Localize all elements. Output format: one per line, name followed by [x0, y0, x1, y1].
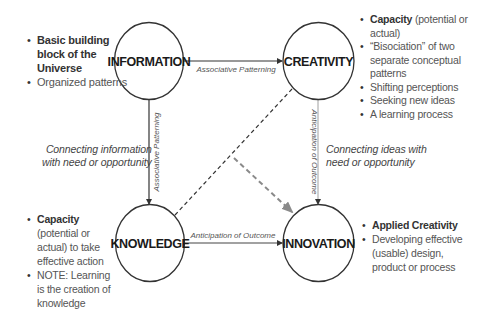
node-knowledge-label: KNOWLEDGE [110, 237, 189, 251]
information-bullets: Basic building block of the Universe Org… [27, 33, 119, 89]
information-bullet-bold: Basic building block of the Universe [37, 34, 109, 74]
creativity-bullet: “Bisociation” of two separate conceptual… [360, 40, 470, 81]
node-information-label: INFORMATION [108, 55, 191, 69]
creativity-bullet-text: Seeking new ideas [370, 94, 455, 106]
creativity-bullet: A learning process [360, 108, 470, 122]
connect-note-left-line2: with need or opportunity [42, 156, 152, 169]
node-creativity: CREATIVITY [283, 23, 354, 100]
creativity-bullet: Capacity (potential or actual) [360, 13, 470, 40]
information-bullet: Organized patterns [27, 75, 119, 89]
creativity-bullet: Seeking new ideas [360, 94, 470, 108]
knowledge-bullets: Capacity (potential or actual) to take e… [27, 212, 119, 310]
connect-note-right-line2: need or opportunity [326, 156, 427, 169]
edge-label-info-knowledge: Associative Patterning [152, 112, 161, 193]
innovation-bullets: Applied Creativity Developing effective … [362, 218, 472, 274]
innovation-bullet-text: Developing effective (usable) design, pr… [372, 233, 462, 273]
knowledge-bullet: NOTE: Learning is the creation of knowle… [27, 268, 119, 310]
creativity-bullet-text: A learning process [370, 108, 453, 120]
innovation-bullet: Developing effective (usable) design, pr… [362, 232, 472, 274]
information-bullet-text: Organized patterns [37, 76, 127, 88]
edge-label-info-creativity: Associative Patterning [195, 65, 276, 74]
node-innovation-label: INNOVATION [282, 237, 355, 251]
creativity-bullets: Capacity (potential or actual) “Bisociat… [360, 13, 470, 121]
knowledge-bullet-text: (potential or actual) to take effective … [37, 227, 104, 267]
creativity-bullet: Shifting perceptions [360, 81, 470, 95]
knowledge-bullet-bold: Capacity [37, 213, 79, 225]
connect-note-right: Connecting ideas with need or opportunit… [326, 143, 427, 169]
node-innovation: INNOVATION [282, 205, 355, 282]
creativity-bullet-text: Shifting perceptions [370, 81, 458, 93]
connect-note-left-line1: Connecting information [42, 143, 152, 156]
information-bullet: Basic building block of the Universe [27, 33, 119, 75]
creativity-bullet-bold: Capacity [370, 13, 412, 25]
edge-label-knowledge-innovation: Anticipation of Outcome [190, 231, 276, 240]
connect-note-right-line1: Connecting ideas with [326, 143, 427, 156]
innovation-bullet: Applied Creativity [362, 218, 472, 232]
edge-label-creativity-innovation: Anticipation of Outcome [310, 109, 319, 195]
dashed-arrow-to-innovation [234, 158, 292, 212]
node-creativity-label: CREATIVITY [284, 55, 354, 69]
knowledge-bullet: Capacity (potential or actual) to take e… [27, 212, 119, 268]
connect-note-left: Connecting information with need or oppo… [42, 143, 152, 169]
node-knowledge: KNOWLEDGE [110, 205, 189, 282]
creativity-bullet-text: “Bisociation” of two separate conceptual… [370, 40, 461, 79]
knowledge-bullet-text: NOTE: Learning is the creation of knowle… [37, 269, 110, 309]
innovation-bullet-bold: Applied Creativity [372, 219, 458, 231]
